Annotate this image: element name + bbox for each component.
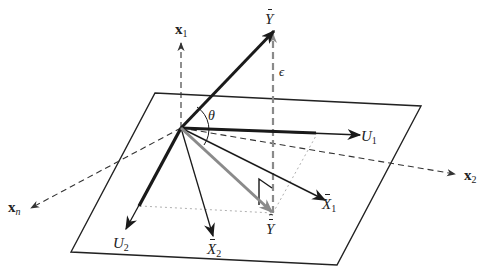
x1bar-vector	[181, 128, 325, 200]
ybar-vector	[181, 31, 274, 128]
x1-label: x1	[175, 22, 188, 39]
theta-label: θ	[208, 109, 215, 123]
ybar-label: Y	[265, 12, 273, 27]
u2-label: U2	[113, 236, 129, 253]
u1-vector	[181, 128, 360, 135]
x2-label: x2	[464, 168, 477, 185]
epsilon-label: ϵ	[279, 65, 284, 78]
x1bar-label: X1	[322, 197, 336, 214]
regression-geometry-diagram: x1 Y ϵ θ U1 x2 xn X1 Y U2 X2	[0, 0, 481, 271]
yhat-label: Y	[266, 222, 274, 237]
u1-label: U1	[361, 129, 377, 146]
xn-label: xn	[8, 200, 21, 217]
diagram-svg	[0, 0, 481, 271]
x2bar-label: X2	[207, 242, 221, 259]
yhat-vector	[181, 128, 272, 212]
